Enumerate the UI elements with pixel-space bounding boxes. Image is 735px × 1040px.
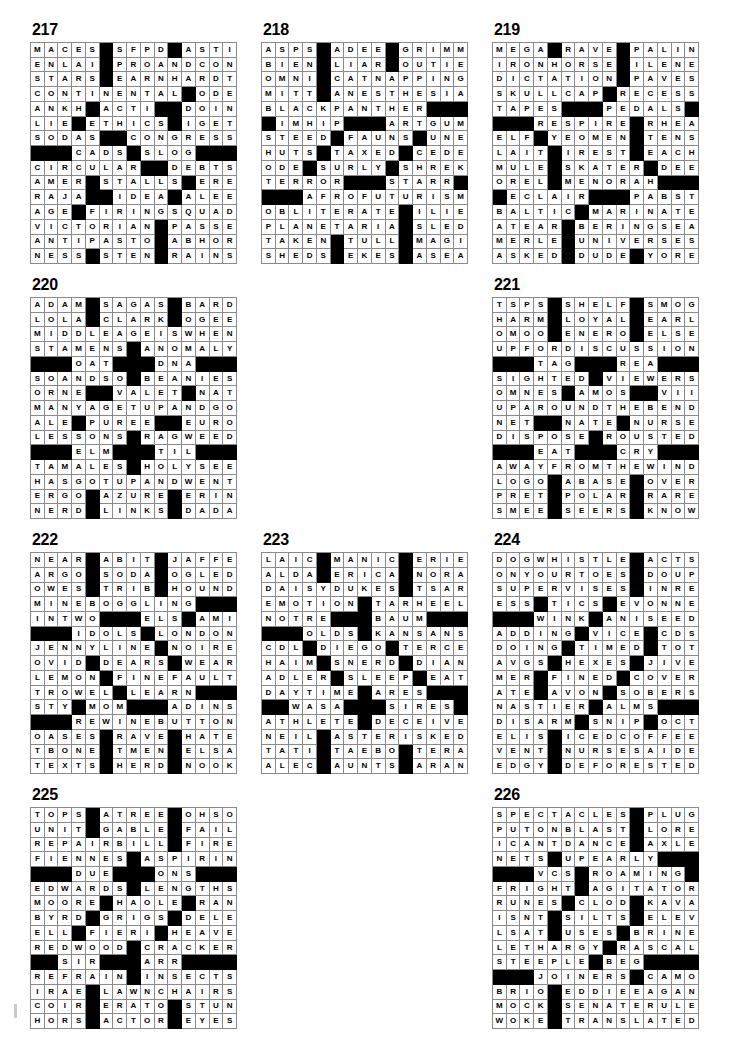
grid-letter-cell: N [45, 612, 59, 627]
cell-letter: O [575, 131, 588, 145]
cell-letter: E [617, 553, 630, 567]
grid-letter-cell: R [562, 460, 576, 475]
grid-letter-cell: S [589, 342, 603, 357]
grid-letter-cell: N [182, 759, 196, 774]
grid-letter-cell: V [672, 656, 686, 671]
cell-letter: R [45, 490, 58, 504]
cell-letter: H [617, 460, 630, 474]
grid-letter-cell: R [685, 882, 699, 897]
cell-letter: T [331, 146, 344, 160]
cell-letter: T [45, 700, 58, 714]
cell-letter: V [658, 671, 671, 685]
cell-letter: S [303, 146, 316, 160]
grid-letter-cell: N [672, 58, 686, 73]
cell-letter: O [196, 759, 209, 773]
grid-letter-cell: A [196, 926, 210, 941]
grid-block-cell [303, 641, 317, 656]
grid-letter-cell: M [58, 460, 72, 475]
cell-letter: Y [644, 445, 657, 459]
cell-letter: N [210, 700, 223, 714]
cell-letter: P [331, 102, 344, 116]
grid-letter-cell: S [644, 298, 658, 313]
grid-block-cell [589, 357, 603, 372]
cell-letter: E [386, 671, 399, 685]
grid-letter-cell: W [534, 612, 548, 627]
grid-letter-cell: A [45, 460, 59, 475]
cell-letter: D [685, 1014, 698, 1028]
cell-letter: C [575, 896, 588, 910]
grid-letter-cell: A [685, 896, 699, 911]
cell-letter: S [331, 656, 344, 670]
cell-letter: D [562, 342, 575, 356]
cell-letter: A [168, 700, 181, 714]
cell-letter: E [427, 745, 440, 759]
grid-letter-cell: I [534, 627, 548, 642]
grid-letter-cell: R [589, 867, 603, 882]
cell-letter: N [358, 759, 371, 773]
grid-letter-cell: E [45, 970, 59, 985]
grid-letter-cell: I [548, 700, 562, 715]
grid-letter-cell: L [630, 852, 644, 867]
grid-letter-cell: O [603, 867, 617, 882]
cell-letter: A [358, 58, 371, 72]
grid-letter-cell: S [630, 745, 644, 760]
grid-letter-cell: S [493, 87, 507, 102]
grid-letter-cell: G [45, 205, 59, 220]
grid-letter-cell: R [441, 568, 455, 583]
cell-letter: D [603, 249, 616, 263]
grid-letter-cell: Y [644, 249, 658, 264]
cell-letter: O [155, 460, 168, 474]
grid-letter-cell: O [672, 504, 686, 519]
cell-letter: T [534, 146, 547, 160]
grid-letter-cell: E [520, 504, 534, 519]
cell-letter: E [358, 87, 371, 101]
grid-letter-cell: I [289, 583, 303, 598]
cell-letter: I [685, 386, 698, 400]
cell-letter: I [372, 553, 385, 567]
grid-letter-cell: S [127, 627, 141, 642]
grid-block-cell [358, 597, 372, 612]
cell-letter: F [548, 460, 561, 474]
grid-letter-cell: E [45, 504, 59, 519]
cell-letter: O [520, 58, 533, 72]
cell-letter: R [441, 568, 454, 582]
cell-letter: I [210, 823, 223, 837]
grid-letter-cell: O [155, 460, 169, 475]
grid-letter-cell: L [155, 176, 169, 191]
cell-letter: C [617, 445, 630, 459]
cell-letter: G [155, 205, 168, 219]
cell-letter: E [141, 190, 154, 204]
grid-letter-cell: F [113, 671, 127, 686]
cell-letter: M [507, 386, 520, 400]
grid-letter-cell: R [100, 220, 114, 235]
grid-block-cell [427, 686, 441, 701]
cell-letter: N [100, 431, 113, 445]
cell-letter: A [603, 205, 616, 219]
grid-letter-cell: D [155, 357, 169, 372]
grid-letter-cell: E [223, 838, 237, 853]
grid-letter-cell: Y [548, 131, 562, 146]
cell-letter: S [617, 911, 630, 925]
cell-letter: O [141, 58, 154, 72]
grid-letter-cell: L [303, 730, 317, 745]
grid-block-cell [303, 161, 317, 176]
cell-letter: I [644, 583, 657, 597]
grid-letter-cell: M [58, 671, 72, 686]
cell-letter: O [603, 759, 616, 773]
grid-letter-cell: H [493, 313, 507, 328]
grid-letter-cell: E [182, 490, 196, 505]
grid-letter-cell: C [672, 715, 686, 730]
cell-letter: A [182, 357, 195, 371]
grid-letter-cell: E [534, 386, 548, 401]
grid-letter-cell: G [182, 146, 196, 161]
grid-letter-cell: A [276, 583, 290, 598]
cell-letter: I [372, 220, 385, 234]
cell-letter: S [58, 249, 71, 263]
grid-letter-cell: N [658, 504, 672, 519]
grid-letter-cell: I [196, 372, 210, 387]
cell-letter: S [399, 161, 412, 175]
grid-block-cell [630, 808, 644, 823]
grid-letter-cell: L [196, 568, 210, 583]
cell-letter: R [644, 490, 657, 504]
grid-letter-cell: D [562, 342, 576, 357]
